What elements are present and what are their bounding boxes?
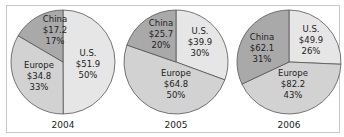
slice-label: $17.2 — [43, 25, 67, 35]
slice-label: $49.9 — [299, 35, 323, 45]
pie-2005: U.S.$39.930%Europe$64.850%China$25.720%2… — [124, 10, 228, 130]
slice-label: China — [43, 14, 67, 24]
slice-label: U.S. — [79, 48, 96, 58]
pie-2004: U.S.$51.950%Europe$34.833%China$17.217%2… — [11, 10, 115, 130]
slice-label: $25.7 — [149, 29, 173, 39]
slice-label: $51.9 — [76, 59, 100, 69]
year-label: 2005 — [165, 120, 188, 130]
slice-label: 43% — [284, 90, 303, 100]
year-label: 2006 — [278, 120, 301, 130]
slice-label: U.S. — [191, 26, 208, 36]
slice-label: 50% — [167, 90, 186, 100]
slice-label: $39.9 — [188, 37, 212, 47]
slice-label: U.S. — [302, 24, 319, 34]
slice-label: China — [149, 18, 173, 28]
slice-label: Europe — [278, 68, 308, 78]
slice-label: 17% — [46, 36, 65, 46]
slice-label: $62.1 — [250, 43, 274, 53]
slice-label: 31% — [253, 54, 272, 64]
slice-label: $34.8 — [27, 71, 51, 81]
slice-label: 20% — [152, 40, 171, 50]
slice-label: 30% — [191, 48, 210, 58]
pie-2006: U.S.$49.926%Europe$82.243%China$62.131%2… — [237, 10, 341, 130]
slice-label: Europe — [161, 68, 191, 78]
slice-label: 26% — [302, 46, 321, 56]
slice-label: China — [250, 32, 274, 42]
slice-label: Europe — [24, 60, 54, 70]
slice-label: $64.8 — [164, 79, 188, 89]
year-label: 2004 — [52, 120, 75, 130]
slice-label: $82.2 — [281, 79, 305, 89]
slice-label: 50% — [79, 70, 98, 80]
slice-label: 33% — [30, 82, 49, 92]
pie-charts: U.S.$51.950%Europe$34.833%China$17.217%2… — [0, 0, 344, 137]
